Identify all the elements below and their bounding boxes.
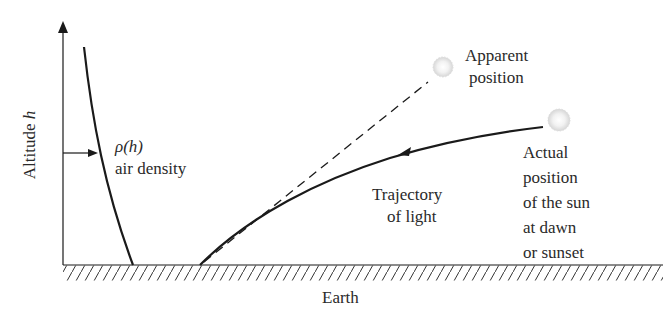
apparent-line-of-sight	[204, 82, 428, 262]
trajectory-direction-arrow-icon	[398, 147, 411, 156]
axis-arrow-icon	[58, 21, 68, 33]
actual-position-label: Actual position of the sun at dawn or su…	[523, 140, 590, 265]
earth-ground	[63, 265, 663, 281]
trajectory-label: Trajectory of light	[372, 184, 442, 228]
density-text: air density	[115, 158, 186, 180]
density-label: ρ(h) air density	[115, 136, 186, 180]
arrowhead-icon	[88, 149, 98, 157]
earth-label: Earth	[322, 287, 359, 309]
actual-sun-icon	[548, 109, 570, 131]
apparent-sun-icon	[433, 57, 453, 77]
density-symbol: ρ(h)	[115, 136, 186, 158]
altitude-axis-label: Altitude h	[20, 111, 40, 179]
density-pointer-arrow	[63, 149, 98, 157]
altitude-axis	[58, 21, 68, 265]
apparent-position-label: Apparent position	[465, 45, 528, 89]
